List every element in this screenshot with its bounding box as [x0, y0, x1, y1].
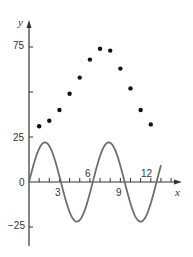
data-point — [47, 119, 51, 123]
x-axis-label: x — [174, 186, 180, 198]
y-tick-neg25: −25 — [8, 220, 25, 231]
data-point — [138, 108, 142, 112]
y-tick-75: 75 — [13, 40, 25, 51]
data-point — [88, 57, 92, 61]
y-axis-arrow-icon — [27, 20, 32, 28]
data-point — [57, 108, 61, 112]
y-tick-25: 25 — [13, 132, 25, 143]
data-point — [67, 92, 71, 96]
data-point — [108, 48, 112, 52]
x-tick-3: 3 — [55, 187, 61, 198]
scatter-points — [37, 47, 153, 129]
chart: y x 75 25 0 −25 3 6 9 12 — [0, 0, 193, 257]
data-point — [128, 86, 132, 90]
y-tick-0: 0 — [19, 177, 25, 188]
x-tick-9: 9 — [116, 187, 122, 198]
data-point — [98, 47, 102, 51]
data-point — [149, 122, 153, 126]
data-point — [37, 124, 41, 128]
x-axis-arrow-icon — [174, 180, 182, 185]
data-point — [118, 66, 122, 70]
y-axis-label: y — [17, 16, 23, 28]
x-tick-6: 6 — [85, 168, 91, 179]
data-point — [78, 75, 82, 79]
x-tick-12: 12 — [141, 168, 153, 179]
